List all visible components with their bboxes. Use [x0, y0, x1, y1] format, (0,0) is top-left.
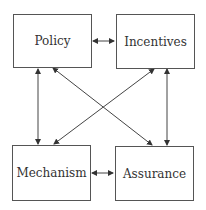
node-policy: Policy — [13, 14, 92, 68]
diagram-canvas: Policy Incentives Mechanism Assurance — [0, 0, 206, 210]
node-incentives: Incentives — [116, 14, 195, 69]
node-assurance: Assurance — [115, 146, 194, 201]
node-mechanism-label: Mechanism — [16, 166, 86, 180]
node-assurance-label: Assurance — [123, 167, 186, 181]
node-mechanism: Mechanism — [12, 145, 91, 201]
node-policy-label: Policy — [35, 34, 71, 48]
node-incentives-label: Incentives — [124, 35, 187, 49]
